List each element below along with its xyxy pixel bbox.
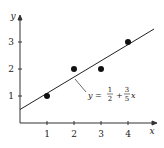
svg-text:1: 1: [108, 86, 112, 94]
y-tick-label: 3: [8, 37, 14, 47]
annotation-leader: [75, 79, 86, 92]
y-axis-label: y: [9, 11, 16, 21]
y-tick-label: 2: [8, 64, 14, 74]
chart: 1 2 3 4 1 2 3 x y y = 1 2 + 3 5 x: [0, 0, 164, 148]
svg-text:+: +: [116, 91, 123, 100]
svg-text:5: 5: [125, 95, 129, 103]
y-axis-arrow-icon: [18, 15, 22, 20]
equation-annotation: y = 1 2 + 3 5 x: [87, 86, 136, 103]
y-tick-label: 1: [8, 91, 14, 101]
x-tick-label: 3: [98, 129, 104, 139]
x-axis-arrow-icon: [152, 121, 157, 125]
x-tick-label: 4: [125, 129, 131, 139]
x-tick-label: 1: [44, 129, 50, 139]
x-axis-label: x: [149, 126, 154, 136]
svg-text:3: 3: [125, 86, 129, 94]
svg-text:2: 2: [108, 95, 112, 103]
svg-text:x: x: [131, 91, 136, 100]
x-tick-label: 2: [71, 129, 77, 139]
svg-text:y =: y =: [87, 91, 102, 100]
